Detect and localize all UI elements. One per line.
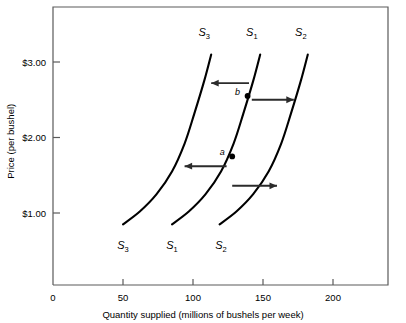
point-a-label: a: [220, 147, 225, 157]
chart-canvas: 050100150200$1.00$2.00$3.00Quantity supp…: [0, 0, 406, 323]
x-tick-label-50: 50: [118, 292, 129, 303]
curve-label-S1-top: S1: [246, 26, 258, 41]
point-b-label: b: [235, 87, 240, 97]
point-b-dot: [245, 93, 251, 99]
curve-label-text-S2-bottom: S2: [215, 239, 227, 254]
curve-label-text-S1-bottom: S1: [166, 239, 178, 254]
supply-curve-shift-chart: 050100150200$1.00$2.00$3.00Quantity supp…: [0, 0, 406, 323]
x-tick-label-150: 150: [255, 292, 271, 303]
curve-label-text-S3-bottom: S3: [117, 239, 129, 254]
curve-label-text-S1-top: S1: [246, 26, 258, 41]
curve-label-text-S2-top: S2: [295, 26, 307, 41]
x-tick-label-100: 100: [185, 292, 201, 303]
arrow-a-left-head: [185, 163, 193, 170]
point-a-dot: [229, 153, 235, 159]
arrow-b-left-head: [211, 80, 219, 87]
y-axis-title: Price (per bushel): [5, 104, 16, 179]
arrow-b-right-head: [286, 96, 294, 103]
curve-label-S2-bottom: S2: [215, 239, 227, 254]
curve-label-S1-bottom: S1: [166, 239, 178, 254]
y-axis-title-group: Price (per bushel): [5, 104, 16, 179]
curve-label-S3-top: S3: [198, 26, 210, 41]
x-tick-label-0: 0: [50, 292, 55, 303]
x-axis-title: Quantity supplied (millions of bushels p…: [102, 309, 303, 320]
supply-curve-S2: [220, 54, 308, 224]
curve-label-S2-top: S2: [295, 26, 307, 41]
x-tick-label-200: 200: [325, 292, 341, 303]
curve-label-S3-bottom: S3: [117, 239, 129, 254]
arrow-a-right-head: [270, 182, 278, 189]
y-tick-label-$3.00: $3.00: [22, 57, 46, 68]
supply-curve-S3: [123, 54, 211, 224]
curve-label-text-S3-top: S3: [198, 26, 210, 41]
y-tick-label-$1.00: $1.00: [22, 208, 46, 219]
y-tick-label-$2.00: $2.00: [22, 132, 46, 143]
